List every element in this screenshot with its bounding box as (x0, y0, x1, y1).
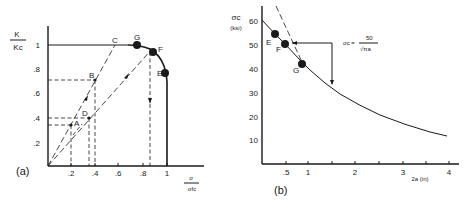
svg-text:40: 40 (249, 65, 258, 74)
b-equation: σc = 50 √πa (343, 35, 378, 52)
svg-text:50: 50 (366, 35, 373, 41)
arrow-icon (84, 95, 88, 101)
a-ytick: .4 (33, 114, 40, 123)
svg-text:60: 60 (249, 17, 258, 26)
a-ytick: 1 (36, 41, 41, 50)
svg-text:30: 30 (249, 89, 258, 98)
svg-text:3: 3 (401, 168, 406, 177)
panel-b: σc (ksi) 60 50 40 30 20 10 .5 1 2 3 4 (230, 6, 459, 196)
a-label-B: B (89, 71, 94, 80)
a-label-G: G (134, 33, 140, 42)
svg-text:σfc: σfc (188, 186, 196, 192)
a-point-F (149, 48, 157, 56)
a-xtick: .4 (92, 169, 99, 178)
a-envelope-curve (128, 45, 167, 166)
a-xtick: 1 (165, 169, 170, 178)
a-label-D: D (82, 109, 88, 118)
a-ytick: .6 (33, 89, 40, 98)
a-ytick: .8 (33, 65, 40, 74)
b-label-E: E (266, 38, 271, 47)
a-y-label: K Kc (10, 30, 26, 52)
a-y-ticks: 1 .8 .6 .4 .2 (33, 41, 40, 148)
b-point-F (281, 40, 289, 48)
a-point-D (87, 116, 90, 119)
svg-text:σ: σ (189, 175, 193, 181)
panel-label-b: (b) (274, 184, 287, 196)
panel-a: 1 .8 .6 .4 .2 .2 .4 .6 .8 1 K Kc σ (10, 26, 204, 192)
arrow-down-icon (330, 80, 334, 85)
svg-text:10: 10 (249, 136, 258, 145)
b-y-label: σc (ksi) (230, 13, 241, 31)
svg-text:4: 4 (447, 168, 452, 177)
svg-text:(ksi): (ksi) (230, 25, 241, 31)
b-y-ticks: 60 50 40 30 20 10 (249, 17, 258, 145)
b-curve (262, 20, 447, 136)
svg-text:K: K (14, 30, 20, 39)
a-point-A (69, 123, 72, 126)
b-point-E (271, 30, 279, 38)
svg-text:1: 1 (306, 168, 311, 177)
a-ytick: .2 (33, 139, 40, 148)
svg-text:20: 20 (249, 113, 258, 122)
b-x-label: 2a (in) (411, 176, 428, 182)
a-xtick: .6 (115, 169, 122, 178)
a-point-G (133, 41, 141, 49)
svg-text:Kc: Kc (13, 43, 22, 52)
panel-label-a: (a) (16, 165, 29, 177)
b-label-G: G (293, 66, 299, 75)
figure: 1 .8 .6 .4 .2 .2 .4 .6 .8 1 K Kc σ (0, 0, 467, 209)
svg-text:σc =: σc = (343, 40, 355, 46)
a-x-ticks: .2 .4 .6 .8 1 (68, 163, 170, 178)
b-arrow-path (292, 43, 332, 84)
a-xtick: .8 (140, 169, 147, 178)
a-label-C: C (112, 36, 118, 45)
a-label-F: F (158, 45, 163, 54)
a-path-OC (48, 45, 115, 166)
a-xtick: .2 (68, 169, 75, 178)
a-label-E: E (157, 69, 162, 78)
svg-text:2: 2 (353, 168, 358, 177)
b-label-F: F (276, 45, 281, 54)
a-x-label: σ σfc (184, 175, 199, 192)
a-label-A: A (74, 119, 80, 128)
svg-text:.5: .5 (283, 168, 290, 177)
svg-text:σc: σc (232, 13, 241, 22)
arrow-down-icon (148, 98, 152, 104)
a-path-OF (48, 49, 152, 166)
svg-text:√πa: √πa (360, 46, 371, 52)
svg-text:50: 50 (249, 41, 258, 50)
